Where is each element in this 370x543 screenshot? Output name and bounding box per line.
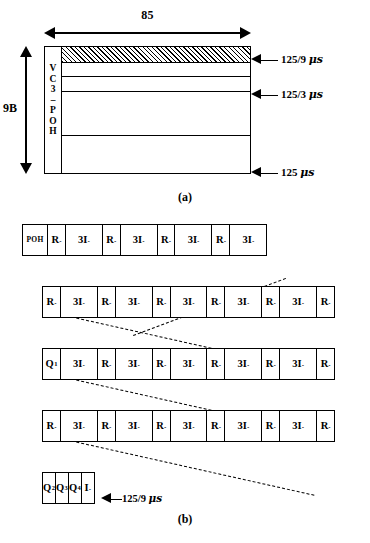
- byte-cell-subscript: ₒ: [164, 423, 166, 430]
- byte-cell-label: 3I: [183, 359, 192, 370]
- divider-line-2: [62, 91, 250, 92]
- byte-cell: Rₒ: [152, 348, 171, 380]
- timing-unit: μs: [300, 166, 314, 179]
- byte-cell-subscript: ₒ: [82, 299, 84, 306]
- byte-cell-label: 3I: [78, 235, 87, 246]
- byte-cell-subscript: ₒ: [224, 237, 226, 244]
- frame-width-arrow: [44, 27, 251, 39]
- byte-cell-label: R: [101, 297, 109, 308]
- byte-cell: 3Iₒ: [279, 286, 317, 318]
- byte-cell: 3Iₒ: [229, 224, 267, 256]
- payload-area: [62, 47, 250, 173]
- byte-cell-label: R: [211, 421, 219, 432]
- byte-cell-label: R: [106, 235, 114, 246]
- byte-cell-label: 3I: [183, 297, 192, 308]
- panel-b-byte-sequence: POHRₒ3IₒRₒ3IₒRₒ3IₒRₒ3Iₒ Rₒ3IₒRₒ3IₒRₒ3IₒR…: [0, 212, 370, 543]
- arrow-shaft: [25, 54, 27, 166]
- timing-label-125: 125 μs: [281, 166, 315, 179]
- byte-cell-subscript: ₒ: [59, 237, 61, 244]
- byte-cell-label: Q: [56, 483, 64, 494]
- byte-cell: 3Iₒ: [60, 286, 98, 318]
- byte-cell-label: 3I: [128, 297, 137, 308]
- byte-cell-label: R: [321, 421, 329, 432]
- byte-cell-subscript: ₒ: [252, 237, 254, 244]
- byte-row-4: Rₒ3IₒRₒ3IₒRₒ3IₒRₒ3IₒRₒ3IₒRₒ: [42, 410, 335, 442]
- poh-char-h: H: [49, 126, 56, 137]
- byte-cell: 3Iₒ: [120, 224, 158, 256]
- byte-cell-subscript: ₒ: [247, 299, 249, 306]
- frame-height-arrow: [20, 46, 32, 174]
- byte-cell-label: POH: [27, 236, 44, 244]
- byte-cell-label: R: [101, 421, 109, 432]
- byte-cell-label: R: [101, 359, 109, 370]
- byte-cell: 3Iₒ: [60, 348, 98, 380]
- byte-cell-subscript: ₒ: [302, 361, 304, 368]
- byte-cell-subscript: ₒ: [219, 361, 221, 368]
- timing-unit: μs: [309, 53, 323, 66]
- timing-value: 125: [281, 166, 300, 178]
- poh-column: V C 3 – P O H: [45, 47, 62, 173]
- byte-cell: 3Iₒ: [115, 348, 153, 380]
- byte-cell: Rₒ: [97, 410, 116, 442]
- byte-cell-label: 3I: [238, 421, 247, 432]
- timing-unit: μs: [309, 88, 323, 101]
- byte-cell-label: R: [216, 235, 224, 246]
- byte-cell-subscript: ₒ: [142, 237, 144, 244]
- arrow-head-left-icon: [251, 167, 261, 177]
- byte-cell-label: 3I: [292, 421, 301, 432]
- byte-cell-subscript: ₒ: [273, 423, 275, 430]
- byte-cell: Q4: [68, 472, 82, 504]
- byte-cell: Rₒ: [42, 410, 61, 442]
- poh-char-dash: –: [51, 95, 56, 106]
- byte-cell-label: R: [47, 421, 55, 432]
- byte-cell: Rₒ: [206, 348, 225, 380]
- byte-cell-subscript: ₒ: [328, 423, 330, 430]
- byte-row-1: POHRₒ3IₒRₒ3IₒRₒ3IₒRₒ3Iₒ: [22, 224, 267, 256]
- byte-cell-label: 3I: [73, 359, 82, 370]
- byte-cell: Iₒ: [81, 472, 95, 504]
- byte-cell: Q2: [42, 472, 56, 504]
- byte-cell: 3Iₒ: [224, 348, 262, 380]
- byte-cell: POH: [22, 224, 48, 256]
- byte-cell: Rₒ: [97, 348, 116, 380]
- byte-cell-label: R: [156, 359, 164, 370]
- panel-a-frame-diagram: 85 9B V C 3 – P O H: [0, 0, 370, 212]
- byte-cell-label: R: [156, 297, 164, 308]
- byte-cell: 3Iₒ: [170, 348, 208, 380]
- byte-cell: Rₒ: [102, 224, 121, 256]
- arrow-head-down-icon: [20, 163, 32, 174]
- byte-cell-subscript: ₒ: [109, 299, 111, 306]
- frame-height-label: 9B: [0, 101, 20, 116]
- byte-cell: Rₒ: [316, 348, 335, 380]
- byte-cell: 3Iₒ: [174, 224, 212, 256]
- byte-cell: 3Iₒ: [279, 348, 317, 380]
- caption-a: (a): [0, 190, 370, 205]
- byte-cell-subscript: ₒ: [82, 361, 84, 368]
- frame-width-label: 85: [44, 8, 251, 23]
- byte-cell-label: 3I: [183, 421, 192, 432]
- byte-cell-subscript: ₒ: [82, 423, 84, 430]
- byte-cell-label: 3I: [128, 359, 137, 370]
- byte-cell-label: R: [161, 235, 169, 246]
- byte-cell-subscript: ₒ: [219, 423, 221, 430]
- byte-cell: Rₒ: [316, 410, 335, 442]
- byte-cell-subscript: ₒ: [192, 299, 194, 306]
- timing-label-125-3: 125/3 μs: [281, 88, 323, 101]
- byte-cell-label: R: [321, 297, 329, 308]
- hatched-band: [62, 47, 250, 63]
- byte-row-2: Rₒ3IₒRₒ3IₒRₒ3IₒRₒ3IₒRₒ3IₒRₒ: [42, 286, 335, 318]
- timing-value: 125/9: [281, 53, 309, 65]
- byte-cell-subscript: ₒ: [109, 423, 111, 430]
- timing-label-125-9: 125/9 μs: [281, 53, 323, 66]
- byte-cell: Rₒ: [316, 286, 335, 318]
- arrow-shaft: [261, 95, 278, 96]
- byte-row-5: Q2Q3Q4Iₒ: [42, 472, 95, 504]
- timing-value: 125/9: [122, 493, 149, 504]
- poh-char-c: C: [50, 74, 57, 85]
- byte-cell-subscript: 1: [54, 361, 58, 368]
- byte-cell: Rₒ: [206, 286, 225, 318]
- divider-line-3: [62, 135, 250, 136]
- byte-cell-subscript: ₒ: [302, 299, 304, 306]
- arrow-head-left-icon: [251, 54, 261, 64]
- byte-cell: 3Iₒ: [115, 286, 153, 318]
